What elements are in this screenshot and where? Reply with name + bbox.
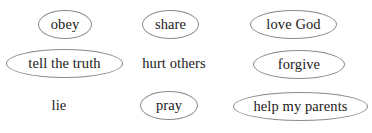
- item-label: tell the truth: [28, 56, 100, 71]
- item-label: share: [155, 17, 186, 32]
- item-label: lie: [52, 98, 67, 113]
- item-help-my-parents[interactable]: help my parents: [233, 92, 368, 121]
- item-label: obey: [51, 17, 80, 32]
- item-label: help my parents: [253, 99, 347, 114]
- item-label: pray: [156, 98, 182, 113]
- item-hurt-others[interactable]: hurt others: [133, 49, 215, 78]
- worksheet-canvas: obey share love God tell the truth hurt …: [0, 0, 372, 133]
- item-obey[interactable]: obey: [38, 10, 92, 39]
- item-label: love God: [266, 17, 320, 32]
- item-love-god[interactable]: love God: [250, 10, 337, 39]
- item-share[interactable]: share: [142, 10, 199, 39]
- item-forgive[interactable]: forgive: [253, 50, 345, 79]
- item-lie[interactable]: lie: [36, 91, 82, 120]
- item-pray[interactable]: pray: [140, 91, 198, 120]
- item-label: hurt others: [142, 56, 206, 71]
- item-tell-the-truth[interactable]: tell the truth: [6, 49, 123, 78]
- item-label: forgive: [278, 57, 320, 72]
